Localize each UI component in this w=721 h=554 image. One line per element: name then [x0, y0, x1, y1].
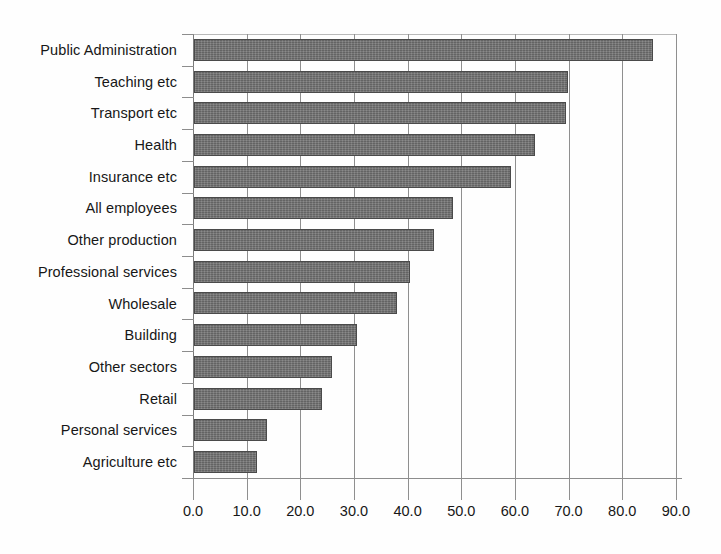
bar [194, 324, 357, 346]
x-axis-tick-mark [622, 479, 623, 500]
x-axis-tick-label: 90.0 [662, 503, 690, 519]
x-axis-tick-label: 80.0 [608, 503, 636, 519]
y-axis-tick-mark [182, 319, 194, 320]
y-axis-tick-mark [182, 129, 194, 130]
bar-row [194, 161, 676, 193]
y-axis-tick-mark [182, 446, 194, 447]
y-axis-tick-mark [182, 224, 194, 225]
bar-row [194, 224, 676, 256]
y-axis-tick-mark [182, 66, 194, 67]
x-axis-tick-label: 20.0 [286, 503, 314, 519]
x-axis-tick-mark [193, 479, 194, 500]
bar-row [194, 383, 676, 415]
bar-row [194, 97, 676, 129]
bar [194, 39, 653, 61]
y-axis-tick-label: Insurance etc [0, 161, 186, 193]
x-axis-tick-mark [247, 479, 248, 500]
x-axis-tick-mark [408, 479, 409, 500]
y-axis-tick-mark [182, 256, 194, 257]
y-axis-tick-mark [182, 288, 194, 289]
y-axis-tick-mark [182, 193, 194, 194]
x-axis-tick-label: 40.0 [393, 503, 421, 519]
x-axis-tick-labels: 0.010.020.030.040.050.060.070.080.090.0 [0, 503, 721, 529]
bar [194, 166, 511, 188]
y-axis-tick-label: Agriculture etc [0, 446, 186, 478]
bar-row [194, 193, 676, 225]
bar [194, 261, 410, 283]
bar [194, 419, 267, 441]
y-axis-tick-label: Transport etc [0, 97, 186, 129]
x-axis-tick-mark [354, 479, 355, 500]
y-axis-tick-mark [182, 415, 194, 416]
y-axis-tick-label: Personal services [0, 415, 186, 447]
bar-row [194, 288, 676, 320]
y-axis-tick-mark [182, 34, 194, 35]
y-axis-tick-label: Public Administration [0, 34, 186, 66]
x-axis-tick-mark [461, 479, 462, 500]
bar-row [194, 129, 676, 161]
bar-row [194, 351, 676, 383]
y-axis-category-labels: Public Administration Teaching etc Trans… [0, 34, 186, 478]
y-axis-tick-label: All employees [0, 193, 186, 225]
bar-series [194, 34, 676, 478]
bar-row [194, 256, 676, 288]
y-axis-tick-mark [182, 161, 194, 162]
bar [194, 197, 453, 219]
x-axis-tick-mark [676, 479, 677, 500]
bar [194, 451, 257, 473]
y-axis-tick-label: Other production [0, 224, 186, 256]
bar [194, 388, 322, 410]
bar [194, 356, 332, 378]
bar-chart: Public Administration Teaching etc Trans… [0, 0, 721, 554]
x-axis-tick-label: 0.0 [183, 503, 203, 519]
x-axis-tick-label: 50.0 [447, 503, 475, 519]
y-axis-tick-label: Teaching etc [0, 66, 186, 98]
bar [194, 71, 568, 93]
x-axis-tick-mark [515, 479, 516, 500]
bar-row [194, 414, 676, 446]
y-axis-tick-label: Wholesale [0, 288, 186, 320]
x-axis-tick-label: 70.0 [554, 503, 582, 519]
bar [194, 134, 535, 156]
y-axis-tick-label: Professional services [0, 256, 186, 288]
y-axis-tick-label: Other sectors [0, 351, 186, 383]
y-axis-tick-mark [182, 383, 194, 384]
x-axis-tick-label: 30.0 [340, 503, 368, 519]
bar-row [194, 319, 676, 351]
x-axis-tick-label: 10.0 [233, 503, 261, 519]
bar-row [194, 66, 676, 98]
y-axis-tick-label: Retail [0, 383, 186, 415]
y-axis-tick-label: Building [0, 319, 186, 351]
y-axis-tick-label: Health [0, 129, 186, 161]
bar [194, 229, 434, 251]
y-axis-tick-mark [182, 97, 194, 98]
x-axis-tick-label: 60.0 [501, 503, 529, 519]
bar [194, 102, 566, 124]
x-axis-tick-mark [569, 479, 570, 500]
bar [194, 292, 397, 314]
x-axis-line [182, 478, 682, 479]
y-axis-tick-mark [182, 351, 194, 352]
bar-row [194, 34, 676, 66]
x-axis-tick-mark [300, 479, 301, 500]
bar-row [194, 446, 676, 478]
